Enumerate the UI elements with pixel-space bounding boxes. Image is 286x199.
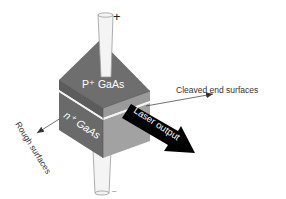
rough-surfaces-label: Rough surfaces — [13, 120, 53, 176]
top-electrode — [98, 13, 113, 77]
p-gaas-label: P⁺ GaAs — [82, 78, 124, 90]
plus-terminal-label: + — [113, 9, 121, 24]
cleaved-surfaces-leader — [146, 94, 213, 106]
laser-diagram: + – P⁺ GaAs n⁺ GaAs Cleaved end surfaces… — [0, 0, 286, 199]
cleaved-surfaces-label: Cleaved end surfaces — [176, 85, 258, 95]
minus-terminal-label: – — [112, 186, 117, 195]
